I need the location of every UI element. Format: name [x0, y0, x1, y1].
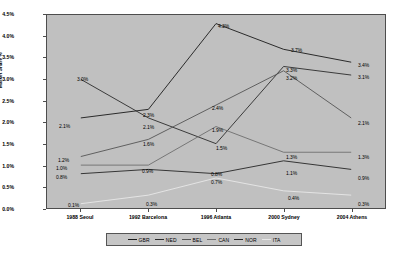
- data-point-label: 0.7%: [211, 180, 222, 185]
- legend-swatch-icon: [155, 239, 164, 240]
- y-axis-tick-label: 4.0%: [0, 33, 14, 39]
- y-axis-tick-label: 1.0%: [0, 163, 14, 169]
- x-axis-tick-label: 1992 Barcelona: [129, 214, 167, 220]
- data-point-label: 3.0%: [77, 77, 88, 82]
- data-point-label: 4.3%: [218, 24, 229, 29]
- data-point-label: 1.0%: [56, 166, 67, 171]
- legend-label: CAN: [218, 237, 229, 243]
- data-point-label: 0.3%: [146, 202, 157, 207]
- data-point-label: 3.2%: [286, 76, 297, 81]
- series-line-gbr: [81, 24, 351, 118]
- x-axis-tick-mark: [216, 209, 217, 212]
- y-axis-tick-label: 3.0%: [0, 76, 14, 82]
- x-axis-tick-label: 2000 Sydney: [268, 214, 299, 220]
- legend-swatch-icon: [262, 239, 271, 240]
- x-axis-tick-mark: [148, 209, 149, 212]
- data-point-label: 1.1%: [286, 171, 297, 176]
- x-axis-tick-mark: [80, 209, 81, 212]
- chart-legend: GBRNEDBELCANNORITA: [106, 233, 302, 246]
- data-point-label: 1.6%: [143, 142, 154, 147]
- y-axis-tick-label: 3.5%: [0, 54, 14, 60]
- data-point-label: 2.3%: [143, 113, 154, 118]
- data-point-label: 1.9%: [212, 128, 223, 133]
- x-axis-tick-label: 2004 Athens: [337, 214, 367, 220]
- legend-item-ned[interactable]: NED: [155, 237, 177, 243]
- legend-label: NED: [166, 237, 177, 243]
- data-point-label: 1.3%: [286, 155, 297, 160]
- data-point-label: 0.3%: [358, 202, 369, 207]
- data-point-label: 0.8%: [56, 175, 67, 180]
- data-point-label: 1.5%: [216, 146, 227, 151]
- data-point-label: 0.4%: [288, 196, 299, 201]
- legend-item-gbr[interactable]: GBR: [128, 237, 150, 243]
- data-point-label: 0.9%: [358, 176, 369, 181]
- line-chart: Market Share % 4.5%4.0%3.5%3.0%2.5%2.0%1…: [0, 0, 404, 255]
- data-point-label: 0.8%: [211, 172, 222, 177]
- data-point-label: 2.4%: [212, 106, 223, 111]
- y-axis-tick-label: 1.5%: [0, 141, 14, 147]
- legend-item-ita[interactable]: ITA: [262, 237, 281, 243]
- x-axis-tick-mark: [352, 209, 353, 212]
- data-point-label: 0.1%: [68, 203, 79, 208]
- data-point-label: 2.1%: [358, 121, 369, 126]
- data-point-label: 2.1%: [143, 125, 154, 130]
- legend-label: ITA: [273, 237, 281, 243]
- legend-swatch-icon: [128, 239, 137, 240]
- data-point-label: 0.9%: [142, 169, 153, 174]
- legend-item-can[interactable]: CAN: [207, 237, 229, 243]
- data-point-label: 1.2%: [58, 158, 69, 163]
- y-axis-tick-label: 0.0%: [0, 206, 14, 212]
- legend-swatch-icon: [182, 239, 191, 240]
- y-axis-tick-label: 2.5%: [0, 98, 14, 104]
- y-axis-tick-label: 0.5%: [0, 184, 14, 190]
- legend-label: NOR: [245, 237, 256, 243]
- legend-item-bel[interactable]: BEL: [182, 237, 203, 243]
- x-axis-tick-mark: [284, 209, 285, 212]
- legend-item-nor[interactable]: NOR: [234, 237, 256, 243]
- data-point-label: 3.7%: [291, 48, 302, 53]
- legend-label: GBR: [139, 237, 150, 243]
- y-axis-tick-mark: [43, 209, 46, 210]
- x-axis-tick-label: 1996 Atlanta: [201, 214, 231, 220]
- y-axis-tick-label: 2.0%: [0, 119, 14, 125]
- legend-swatch-icon: [207, 239, 216, 240]
- data-point-label: 3.4%: [358, 63, 369, 68]
- legend-label: BEL: [193, 237, 203, 243]
- data-point-label: 3.1%: [358, 75, 369, 80]
- data-point-label: 2.1%: [59, 124, 70, 129]
- data-point-label: 1.3%: [358, 155, 369, 160]
- x-axis-tick-label: 1988 Seoul: [66, 214, 93, 220]
- y-axis-tick-label: 4.5%: [0, 11, 14, 17]
- data-point-label: 3.3%: [286, 68, 297, 73]
- legend-swatch-icon: [234, 239, 243, 240]
